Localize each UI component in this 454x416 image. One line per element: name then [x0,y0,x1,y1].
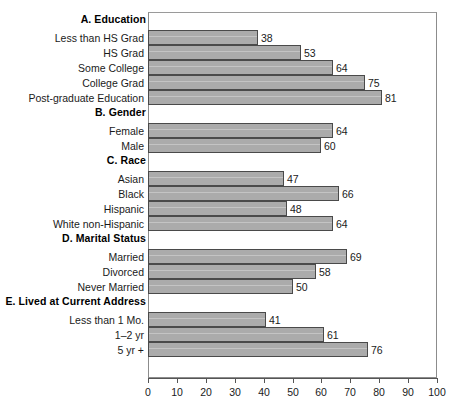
bar-value-label: 66 [342,188,354,200]
x-axis-tick [206,378,207,383]
bar-value-label: 60 [324,140,336,152]
category-label: Asian [0,173,144,185]
group-header-d: D. Marital Status [0,232,146,244]
x-axis-tick-label: 20 [191,386,221,398]
bar [148,30,258,45]
category-label: Never Married [0,281,144,293]
bar [148,123,333,138]
grouped-horizontal-bar-chart: A. EducationLess than HS GradHS GradSome… [0,0,454,416]
bar-value-label: 75 [368,77,380,89]
x-axis-tick-label: 60 [306,386,336,398]
x-axis-tick [293,378,294,383]
category-label: Black [0,188,144,200]
x-axis-tick [177,378,178,383]
category-label: Male [0,140,144,152]
category-label: Less than 1 Mo. [0,314,144,326]
category-label: 5 yr + [0,344,144,356]
bar-value-label: 76 [371,344,383,356]
x-axis-tick-label: 30 [220,386,250,398]
x-axis-tick [408,378,409,383]
category-label: Female [0,125,144,137]
bar-value-label: 53 [304,47,316,59]
x-axis-tick-label: 80 [364,386,394,398]
bar [148,90,382,105]
bar [148,171,284,186]
category-label: HS Grad [0,47,144,59]
x-axis-tick [235,378,236,383]
bar [148,327,324,342]
bar-value-label: 64 [336,125,348,137]
bar-value-label: 58 [319,266,331,278]
x-axis-tick-label: 40 [249,386,279,398]
bar [148,201,287,216]
bar [148,216,333,231]
category-label: 1–2 yr [0,329,144,341]
bar [148,342,368,357]
group-header-c: C. Race [0,154,146,166]
bar [148,279,293,294]
group-header-b: B. Gender [0,106,146,118]
category-label: College Grad [0,77,144,89]
bar-value-label: 69 [350,251,362,263]
x-axis-tick-label: 70 [335,386,365,398]
x-axis-tick-label: 0 [133,386,163,398]
x-axis-tick [148,378,149,383]
bar-value-label: 41 [269,314,281,326]
group-header-e: E. Lived at Current Address [0,295,146,307]
bar [148,45,301,60]
bar [148,138,321,153]
category-label: Hispanic [0,203,144,215]
category-label: Post-graduate Education [0,92,144,104]
bar-value-label: 64 [336,62,348,74]
bar [148,75,365,90]
group-header-a: A. Education [0,13,146,25]
x-axis-tick-label: 50 [278,386,308,398]
x-axis-tick-label: 90 [393,386,423,398]
bar-value-label: 61 [327,329,339,341]
bar [148,60,333,75]
bar [148,249,347,264]
x-axis-tick [437,378,438,383]
bar-value-label: 64 [336,218,348,230]
category-label: White non-Hispanic [0,218,144,230]
x-axis-tick [321,378,322,383]
bar-value-label: 48 [290,203,302,215]
x-axis-tick [379,378,380,383]
x-axis-tick [350,378,351,383]
x-axis-tick-label: 10 [162,386,192,398]
bar-value-label: 50 [296,281,308,293]
bar-value-label: 81 [385,92,397,104]
bar-value-label: 38 [261,32,273,44]
bar-value-label: 47 [287,173,299,185]
category-label: Less than HS Grad [0,32,144,44]
bar [148,312,266,327]
x-axis-tick [264,378,265,383]
bar [148,186,339,201]
x-axis-tick-label: 100 [422,386,452,398]
category-label: Some College [0,62,144,74]
category-label: Divorced [0,266,144,278]
bar [148,264,316,279]
category-label: Married [0,251,144,263]
